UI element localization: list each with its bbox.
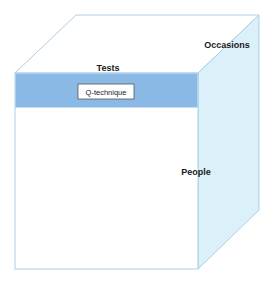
occasions-axis-label: Occasions xyxy=(204,40,250,50)
q-technique-label: Q-technique xyxy=(86,88,127,97)
tests-axis-label: Tests xyxy=(97,63,120,73)
data-cube-diagram: Q-technique Tests Occasions People xyxy=(0,0,273,284)
people-axis-label: People xyxy=(181,167,211,177)
